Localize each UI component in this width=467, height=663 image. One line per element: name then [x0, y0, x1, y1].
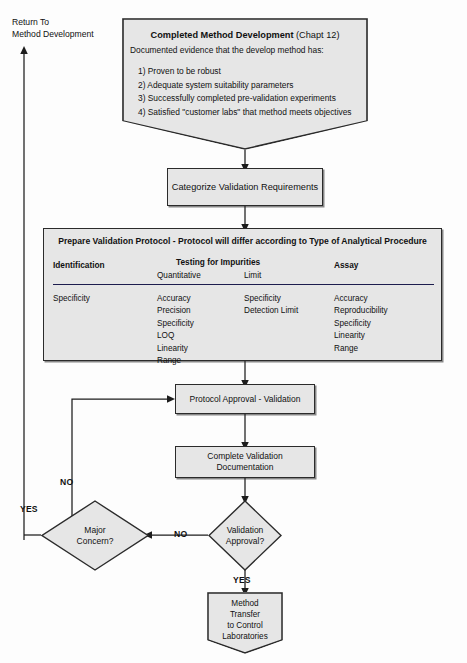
validation-approval-line2: Approval?	[226, 536, 264, 547]
method-transfer-line2: Transfer	[207, 609, 283, 620]
protocol-identification-item-1: Specificity	[53, 293, 90, 305]
return-label-line2: Method Development	[12, 28, 122, 40]
protocol-quantitative-item-4: LOQ	[157, 330, 194, 342]
major-concern-label: Major Concern?	[41, 500, 149, 571]
protocol-assay-item-2: Reproducibility	[334, 305, 388, 317]
protocol-column-items-identification: Specificity	[53, 293, 90, 305]
validation-approval-line1: Validation	[227, 525, 264, 536]
categorize-label: Categorize Validation Requirements	[172, 182, 318, 192]
edge-label-concern-yes: YES	[20, 504, 38, 514]
protocol-title: Prepare Validation Protocol - Protocol w…	[44, 236, 441, 246]
protocol-column-header-testing-for-impurities: Testing for Impurities	[176, 257, 260, 267]
protocol-assay-item-3: Specificity	[334, 318, 388, 330]
method-transfer-line3: to Control	[207, 620, 283, 631]
completed-method-item-1: 1) Proven to be robust	[138, 65, 352, 79]
protocol-assay-item-1: Accuracy	[334, 293, 388, 305]
method-transfer-line4: Laboratories	[207, 631, 283, 642]
node-prepare-validation-protocol: Prepare Validation Protocol - Protocol w…	[43, 228, 442, 361]
protocol-column-header-assay: Assay	[334, 260, 358, 270]
complete-documentation-line1: Complete Validation	[207, 451, 282, 462]
protocol-column-items-assay: Accuracy Reproducibility Specificity Lin…	[334, 293, 388, 355]
protocol-limit-item-2: Detection Limit	[244, 305, 298, 317]
protocol-quantitative-item-2: Precision	[157, 305, 194, 317]
node-complete-validation-documentation: Complete Validation Documentation	[175, 446, 315, 478]
completed-method-item-4: 4) Satisfied "customer labs" that method…	[138, 106, 352, 120]
protocol-limit-item-1: Specificity	[244, 293, 298, 305]
node-protocol-approval-validation: Protocol Approval - Validation	[175, 384, 315, 414]
completed-method-item-3: 3) Successfully completed pre-validation…	[138, 92, 352, 106]
method-transfer-line1: Method	[207, 598, 283, 609]
protocol-column-items-quantitative: Accuracy Precision Specificity LOQ Linea…	[157, 293, 194, 368]
protocol-assay-item-4: Linearity	[334, 330, 388, 342]
completed-method-heading-bold: Completed Method Development	[151, 30, 294, 40]
node-major-concern-decision: Major Concern?	[41, 500, 149, 571]
protocol-column-items-limit: Specificity Detection Limit	[244, 293, 298, 318]
return-to-method-development-label: Return To Method Development	[12, 16, 122, 41]
edge-label-concern-no: NO	[60, 477, 73, 487]
method-transfer-label: Method Transfer to Control Laboratories	[207, 598, 283, 642]
protocol-quantitative-item-3: Specificity	[157, 318, 194, 330]
protocol-header-rule	[53, 284, 434, 285]
edge-label-validation-no: NO	[174, 529, 187, 539]
major-concern-line1: Major	[84, 525, 105, 536]
flowchart-canvas: Return To Method Development Completed M…	[0, 0, 467, 663]
protocol-subheader-quantitative: Quantitative	[157, 271, 201, 280]
protocol-quantitative-item-1: Accuracy	[157, 293, 194, 305]
protocol-quantitative-item-6: Range	[157, 355, 194, 367]
protocol-quantitative-item-5: Linearity	[157, 343, 194, 355]
major-concern-line2: Concern?	[77, 536, 114, 547]
node-method-transfer-to-control-laboratories: Method Transfer to Control Laboratories	[207, 592, 283, 654]
completed-method-items: 1) Proven to be robust 2) Adequate syste…	[138, 65, 352, 119]
validation-approval-label: Validation Approval?	[208, 500, 282, 571]
complete-documentation-line2: Documentation	[216, 462, 273, 473]
protocol-subheader-limit: Limit	[244, 271, 261, 280]
node-completed-method-development: Completed Method Development (Chapt 12) …	[122, 18, 368, 150]
protocol-assay-item-5: Range	[334, 343, 388, 355]
node-categorize-validation-requirements: Categorize Validation Requirements	[167, 168, 323, 206]
completed-method-heading: Completed Method Development (Chapt 12)	[122, 30, 368, 40]
completed-method-heading-rest: (Chapt 12)	[293, 30, 339, 40]
protocol-approval-label: Protocol Approval - Validation	[190, 394, 301, 404]
completed-method-item-2: 2) Adequate system suitability parameter…	[138, 79, 352, 93]
protocol-column-header-identification: Identification	[53, 260, 105, 270]
edge-label-validation-yes: YES	[233, 575, 251, 585]
node-validation-approval-decision: Validation Approval?	[208, 500, 282, 571]
return-label-line1: Return To	[12, 16, 122, 28]
completed-method-subtitle: Documented evidence that the develop met…	[130, 45, 324, 55]
